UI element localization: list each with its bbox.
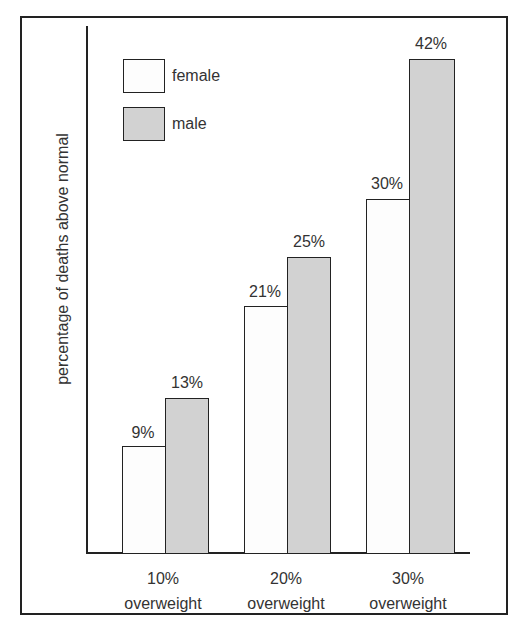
value-label-female-30: 30%	[357, 175, 417, 193]
value-label-female-20: 21%	[235, 283, 295, 301]
bar-male-20	[287, 257, 331, 554]
legend-label-male: male	[172, 115, 207, 133]
y-axis-label: percentage of deaths above normal	[54, 133, 72, 385]
category-label-10: 10% overweight	[108, 566, 218, 616]
value-label-male-20: 25%	[279, 233, 339, 251]
legend-swatch-male	[123, 107, 165, 141]
category-label-30-pct: 30%	[353, 566, 463, 591]
y-axis	[86, 26, 88, 554]
category-label-10-pct: 10%	[108, 566, 218, 591]
category-label-20: 20% overweight	[231, 566, 341, 616]
bar-female-30	[366, 199, 410, 554]
value-label-male-10: 13%	[157, 374, 217, 392]
category-label-10-word: overweight	[108, 591, 218, 616]
bar-male-30	[409, 59, 455, 554]
category-label-20-word: overweight	[231, 591, 341, 616]
category-label-30-word: overweight	[353, 591, 463, 616]
legend-swatch-female	[123, 59, 165, 93]
bar-male-10	[165, 398, 209, 554]
value-label-male-30: 42%	[401, 35, 461, 53]
bar-female-20	[244, 306, 288, 554]
category-label-30: 30% overweight	[353, 566, 463, 616]
value-label-female-10: 9%	[113, 424, 173, 442]
legend-label-female: female	[172, 67, 220, 85]
bar-female-10	[122, 446, 166, 554]
category-label-20-pct: 20%	[231, 566, 341, 591]
